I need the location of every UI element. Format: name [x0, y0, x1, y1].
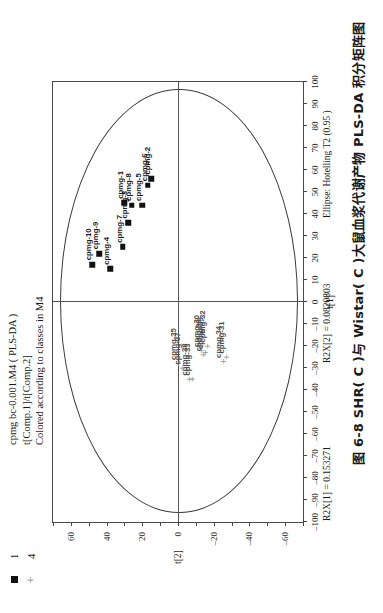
x-tick-label: 50: [310, 188, 320, 197]
x-tick: [303, 455, 307, 456]
plus-marker-icon: +: [203, 343, 210, 350]
data-point-label: cpmg-8: [123, 173, 132, 201]
y-tick: [142, 522, 143, 526]
data-point[interactable]: +cpmg-33: [189, 376, 196, 383]
x-tick: [303, 345, 307, 346]
x-tick: [303, 169, 307, 170]
x-tick-label: –100: [310, 513, 320, 531]
square-marker-icon: [140, 202, 146, 208]
y-tick-label: 40: [102, 532, 112, 541]
y-tick: [178, 522, 179, 526]
rotated-figure-canvas: 1 + 4 cpmg bc-0.001.M4 ( PLS-DA ) t[Comp…: [0, 0, 383, 613]
x-tick-label: –40: [310, 383, 320, 397]
chart-subtitle: t[Comp.1]/t[Comp.2]: [20, 297, 34, 445]
y-tick: [232, 524, 233, 527]
x-tick: [303, 521, 307, 522]
x-tick: [303, 103, 307, 104]
data-point-label: cpmg-32: [198, 310, 207, 342]
plus-marker-icon: +: [178, 365, 185, 372]
data-point[interactable]: cpmg-10: [90, 262, 96, 268]
y-tick: [303, 524, 304, 527]
plot-area: –100–90–80–70–60–50–40–30–20–10010203040…: [52, 81, 304, 523]
x-tick: [303, 257, 307, 258]
y-tick: [285, 522, 286, 526]
x-tick-label: 10: [310, 276, 320, 285]
y-tick: [249, 522, 250, 526]
plus-marker-icon: +: [223, 354, 230, 361]
y-tick: [53, 524, 54, 527]
x-tick-label: –90: [310, 493, 320, 507]
data-point[interactable]: cpmg-3: [125, 220, 131, 226]
x-tick-label: 40: [310, 210, 320, 219]
square-marker-icon: [122, 200, 128, 206]
x-tick-label: –80: [310, 471, 320, 485]
legend-label-class-4: 4: [26, 554, 37, 559]
y-tick: [124, 524, 125, 527]
x-tick: [303, 81, 307, 82]
legend-item-1: 1: [6, 439, 23, 589]
x-tick-label: 80: [310, 122, 320, 131]
data-point-label: cpmg-2: [143, 147, 152, 175]
data-point[interactable]: cpmg-4: [107, 266, 113, 272]
y-tick: [89, 524, 90, 527]
data-point[interactable]: cpmg-8: [129, 202, 135, 208]
data-point[interactable]: cpmg-5: [140, 202, 146, 208]
x-tick: [303, 389, 307, 390]
square-marker-icon: [148, 176, 154, 182]
plus-marker-icon: +: [201, 349, 208, 356]
data-point[interactable]: cpmg-2: [148, 176, 154, 182]
pls-da-score-plot: 1 + 4 cpmg bc-0.001.M4 ( PLS-DA ) t[Comp…: [0, 0, 383, 613]
footer-r2x1: R2X[1] = 0.153271: [322, 446, 332, 521]
x-tick: [303, 367, 307, 368]
legend-label-class-1: 1: [9, 554, 20, 559]
y-tick-label: –40: [244, 532, 254, 546]
x-tick-label: 20: [310, 254, 320, 263]
y-tick-label: 60: [66, 532, 76, 541]
x-tick-label: –10: [310, 317, 320, 331]
x-tick: [303, 499, 307, 500]
y-tick: [107, 522, 108, 526]
data-point-label: cpmg-31: [217, 321, 226, 353]
legend-square-marker-icon: [9, 571, 20, 589]
chart-color-note: Colored according to classes in M4: [33, 297, 47, 445]
x-tick: [303, 213, 307, 214]
plus-marker-icon: +: [189, 376, 196, 383]
x-tick: [303, 279, 307, 280]
data-point[interactable]: +cpmg-39: [201, 349, 208, 356]
legend-plus-marker-icon: +: [26, 571, 37, 589]
legend: 1 + 4: [6, 439, 40, 589]
data-point[interactable]: cpmg-7: [120, 244, 126, 250]
x-tick: [303, 477, 307, 478]
y-axis-label: t[2]: [173, 550, 183, 564]
square-marker-icon: [107, 266, 113, 272]
x-tick: [303, 147, 307, 148]
y-tick: [71, 522, 72, 526]
square-marker-icon: [90, 262, 96, 268]
y-tick: [160, 524, 161, 527]
x-tick-label: 100: [310, 75, 320, 89]
y-tick-label: –20: [209, 532, 219, 546]
data-point[interactable]: +cpmg-31: [223, 354, 230, 361]
x-tick: [303, 323, 307, 324]
data-point-label: cpmg-9: [91, 222, 100, 250]
data-point-label: cpmg-37: [173, 332, 182, 364]
footer-ellipse-note: Ellipse: Hotelling T2 (0.95 ): [322, 110, 332, 218]
x-tick-label: –60: [310, 427, 320, 441]
x-tick-label: –70: [310, 449, 320, 463]
y-tick: [196, 524, 197, 527]
square-marker-icon: [129, 202, 135, 208]
x-tick: [303, 411, 307, 412]
data-point[interactable]: cpmg-1: [122, 200, 128, 206]
figure-caption: 图 6-8 SHR( C )与 Wistar( C )大鼠血浆代谢产物 PLS-…: [348, 22, 367, 465]
square-marker-icon: [120, 244, 126, 250]
x-tick-label: 70: [310, 144, 320, 153]
data-point[interactable]: +cpmg-32: [203, 343, 210, 350]
figure-page: 1 + 4 cpmg bc-0.001.M4 ( PLS-DA ) t[Comp…: [0, 0, 383, 613]
y-tick-label: 20: [137, 532, 147, 541]
chart-title-block: cpmg bc-0.001.M4 ( PLS-DA ) t[Comp.1]/t[…: [6, 297, 47, 445]
data-point[interactable]: cpmg-6: [145, 183, 151, 189]
data-point[interactable]: +cpmg-37: [178, 365, 185, 372]
y-tick: [267, 524, 268, 527]
square-marker-icon: [125, 220, 131, 226]
x-tick-label: –20: [310, 339, 320, 353]
